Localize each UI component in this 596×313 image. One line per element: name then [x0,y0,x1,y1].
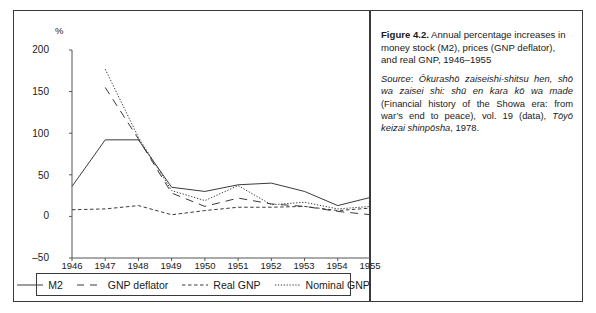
legend-item-real-gnp[interactable]: Real GNP [175,279,267,291]
chart-legend: M2 GNP deflator Real GNP Nominal GNP [36,273,351,296]
figure-caption-title: Figure 4.2. Annual percentage increases … [381,29,573,67]
source-translation: (Financial history of the Showa era: fro… [381,98,573,121]
legend-item-nominal-gnp[interactable]: Nominal GNP [268,279,377,291]
figure-page: % 200 150 100 50 0 –50 1946 1947 1948 19… [0,0,596,313]
legend-label-m2: M2 [48,279,63,291]
source-year: , 1978. [450,122,479,133]
legend-item-gnp-deflator[interactable]: GNP deflator [70,279,176,291]
legend-swatch-long-dash [77,281,103,289]
data-series-layer [72,69,371,215]
source-label: Source [381,73,411,84]
chart-area: % 200 150 100 50 0 –50 1946 1947 1948 19… [14,11,371,303]
source-separator: : [411,73,419,84]
legend-item-m2[interactable]: M2 [10,279,70,291]
figure-number: Figure 4.2. [381,29,429,40]
legend-swatch-dotted [275,281,301,289]
plot-svg [14,11,371,303]
series-line-nominal-gnp [105,69,371,209]
series-line-gnp-deflator [105,87,371,214]
legend-label-real-gnp: Real GNP [213,279,260,291]
caption-panel: Figure 4.2. Annual percentage increases … [370,10,583,302]
legend-swatch-short-dash [182,281,208,289]
figure-source-note: Source: Ōkurashō zaiseishi-shitsu hen, s… [381,73,573,135]
legend-label-gnp-deflator: GNP deflator [108,279,169,291]
series-line-m2 [72,140,371,206]
legend-swatch-solid [17,281,43,289]
legend-label-nominal-gnp: Nominal GNP [306,279,370,291]
chart-panel: % 200 150 100 50 0 –50 1946 1947 1948 19… [13,10,370,302]
